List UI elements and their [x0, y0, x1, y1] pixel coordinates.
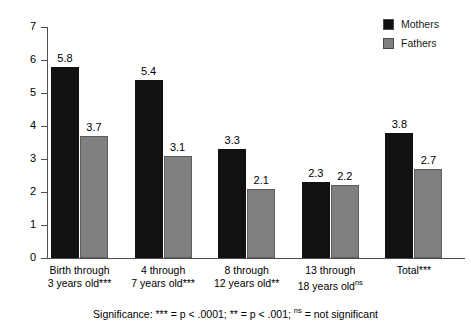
bar-value-label: 2.1 — [244, 174, 278, 186]
y-axis-tick-label: 7 — [18, 21, 36, 32]
bar-group: 3.32.1 — [218, 27, 275, 258]
category-label-line2: 18 years oldns — [285, 277, 375, 292]
x-axis-line — [47, 258, 465, 259]
category-label-line2: 12 years old** — [202, 277, 292, 290]
category-label-line1: Total*** — [369, 264, 459, 277]
x-axis-category-label: Total*** — [369, 264, 459, 277]
bar-mothers — [385, 133, 413, 258]
bar-mothers — [218, 149, 246, 258]
bar-value-label: 3.7 — [77, 121, 111, 133]
bar-fathers — [80, 136, 108, 258]
bar-group: 5.43.1 — [135, 27, 192, 258]
y-axis-tick-label: 2 — [18, 186, 36, 197]
bar-fathers — [331, 185, 359, 258]
category-label-line1: 4 through — [118, 264, 208, 277]
category-label-line1: 8 through — [202, 264, 292, 277]
x-axis-category-label: 13 through18 years oldns — [285, 264, 375, 292]
bar-mothers — [135, 80, 163, 258]
bar-mothers — [51, 67, 79, 258]
category-label-line1: 13 through — [285, 264, 375, 277]
bar-group: 2.32.2 — [302, 27, 359, 258]
bar-group: 3.82.7 — [385, 27, 442, 258]
category-label-line2: 3 years old*** — [35, 277, 125, 290]
y-axis-tick-label: 3 — [18, 153, 36, 164]
y-axis-tick-label: 0 — [18, 252, 36, 263]
y-axis-tick — [41, 258, 47, 259]
bar-value-label: 2.7 — [411, 154, 445, 166]
bar-fathers — [414, 169, 442, 258]
footnote-prefix: Significance: *** = p < .0001; ** = p < … — [93, 308, 294, 320]
x-axis-category-label: 8 through12 years old** — [202, 264, 292, 289]
bar-value-label: 3.1 — [161, 141, 195, 153]
footnote-ns-superscript: ns — [294, 306, 302, 315]
bar-value-label: 2.2 — [328, 170, 362, 182]
x-axis-category-label: 4 through7 years old*** — [118, 264, 208, 289]
significance-footnote: Significance: *** = p < .0001; ** = p < … — [0, 306, 471, 320]
plot-area: 5.83.75.43.13.32.12.32.23.82.7 — [47, 27, 465, 258]
y-axis-tick-label: 1 — [18, 219, 36, 230]
bar-fathers — [164, 156, 192, 258]
category-label-ns-superscript: ns — [355, 278, 363, 287]
bar-chart: Mothers Fathers 01234567 5.83.75.43.13.3… — [0, 0, 471, 327]
bar-value-label: 3.8 — [382, 118, 416, 130]
bar-value-label: 5.4 — [132, 65, 166, 77]
y-axis-tick-label: 6 — [18, 54, 36, 65]
y-axis-tick-label: 4 — [18, 120, 36, 131]
bar-fathers — [247, 189, 275, 258]
footnote-suffix: = not significant — [302, 308, 378, 320]
bar-group: 5.83.7 — [51, 27, 108, 258]
bar-mothers — [302, 182, 330, 258]
category-label-line2: 7 years old*** — [118, 277, 208, 290]
x-axis-category-label: Birth through3 years old*** — [35, 264, 125, 289]
bar-value-label: 5.8 — [48, 52, 82, 64]
category-label-line1: Birth through — [35, 264, 125, 277]
y-axis-tick-label: 5 — [18, 87, 36, 98]
bar-value-label: 3.3 — [215, 134, 249, 146]
